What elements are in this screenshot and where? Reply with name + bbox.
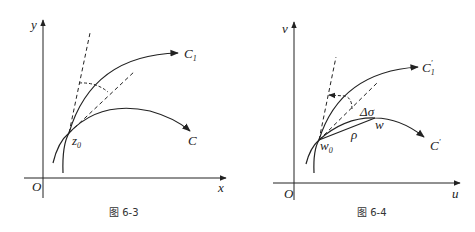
y-axis-label: y — [29, 17, 37, 32]
tangent-c1-dashed — [319, 57, 336, 140]
point-w-label: w — [375, 117, 384, 132]
v-axis-label: v — [282, 21, 288, 36]
u-axis-label: u — [452, 186, 459, 201]
caption-fig-6-4: 图 6-4 — [357, 207, 387, 218]
angle-arc-dashed — [329, 95, 352, 109]
origin-label: O — [284, 186, 294, 201]
x-axis-label: x — [217, 180, 224, 195]
point-w0-label: w0 — [320, 138, 333, 155]
curve-c-prime-label: C′ — [430, 138, 441, 153]
curve-c-label: C — [188, 133, 197, 148]
delta-sigma-label: Δσ — [359, 104, 375, 119]
figure-canvas: y x O C1 C z0 图 6-3 v u O C1′ C′ Δσ ρ w … — [0, 0, 475, 232]
point-z0-label: z0 — [71, 133, 81, 150]
curve-c1-prime — [314, 67, 418, 173]
caption-fig-6-3: 图 6-3 — [109, 207, 139, 218]
curve-c1-prime-label: C1′ — [422, 59, 435, 77]
figure-6-3: y x O C1 C z0 图 6-3 — [24, 17, 226, 218]
origin-label: O — [32, 179, 42, 194]
figure-6-4: v u O C1′ C′ Δσ ρ w w0 图 6-4 — [273, 21, 460, 218]
rho-label: ρ — [350, 127, 357, 142]
curve-c1 — [63, 53, 178, 173]
curve-c1-label: C1 — [184, 46, 197, 63]
chord-rho — [319, 118, 375, 140]
